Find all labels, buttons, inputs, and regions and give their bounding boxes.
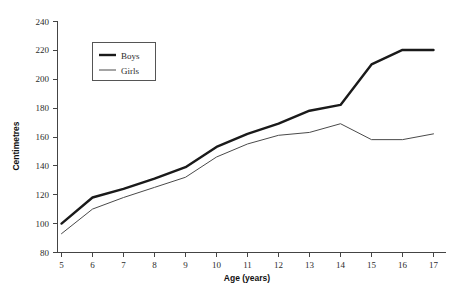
x-tick-label: 12 [274,260,283,270]
x-tick-label: 15 [367,260,377,270]
x-tick-label: 9 [183,260,188,270]
x-axis-title: Age (years) [224,273,270,283]
growth-chart: 240 220 200 180 160 140 120 100 80 [0,0,464,297]
y-tick-label: 140 [36,161,50,171]
y-tick-label: 120 [36,190,50,200]
y-tick-label: 220 [36,45,50,55]
y-tick-label: 240 [36,17,50,27]
y-tick-label: 80 [40,248,50,258]
y-tick-label: 100 [36,219,50,229]
x-tick-label: 13 [305,260,315,270]
x-tick-label: 11 [243,260,252,270]
x-tick-label: 8 [152,260,157,270]
legend-label-girls: Girls [121,66,139,76]
y-tick-label: 200 [36,74,50,84]
x-tick-label: 7 [121,260,126,270]
x-tick-label: 17 [429,260,439,270]
legend-label-boys: Boys [121,51,140,61]
y-axis-title: Centimetres [11,121,21,170]
y-tick-label: 180 [36,103,50,113]
x-tick-label: 5 [59,260,64,270]
x-tick-label: 10 [212,260,222,270]
x-tick-label: 16 [398,260,408,270]
chart-svg: 240 220 200 180 160 140 120 100 80 [0,0,464,297]
x-tick-label: 14 [336,260,346,270]
y-tick-label: 160 [36,132,50,142]
y-axis-tick-labels: 240 220 200 180 160 140 120 100 80 [36,17,50,258]
legend: Boys Girls [93,43,156,81]
x-tick-label: 6 [90,260,95,270]
